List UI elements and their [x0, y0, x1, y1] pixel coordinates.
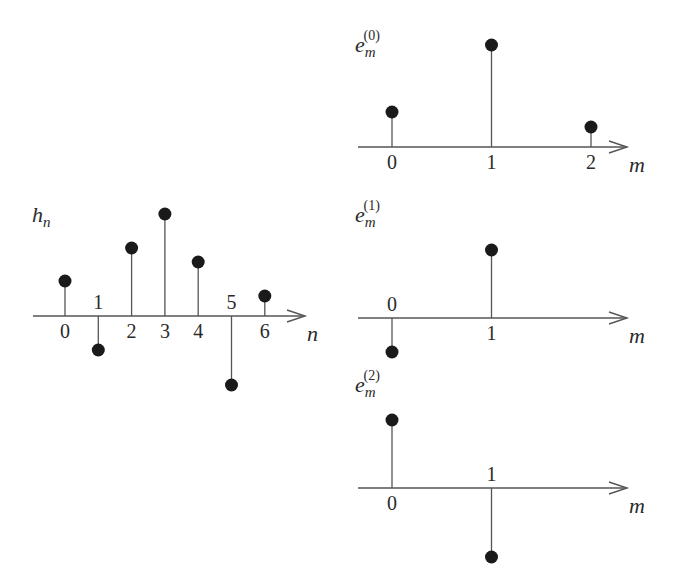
stem-marker — [92, 344, 105, 357]
stem-marker — [225, 379, 238, 392]
stem: 1 — [485, 39, 498, 174]
stem-plot-e-m-2: m01 — [358, 414, 645, 564]
x-axis-label: m — [629, 323, 645, 348]
ylabel-e-m-0: em(0) — [355, 28, 380, 60]
stem: 1 — [485, 463, 498, 564]
stem-marker — [386, 414, 399, 427]
tick-label: 1 — [487, 322, 497, 344]
ylabel-e1-sub: m — [365, 214, 376, 230]
stem-marker — [485, 244, 498, 257]
x-axis-label: n — [307, 321, 318, 346]
tick-label: 0 — [387, 293, 397, 315]
tick-label: 1 — [487, 463, 497, 485]
stem-marker — [386, 346, 399, 359]
tick-label: 0 — [387, 492, 397, 514]
tick-label: 4 — [193, 320, 203, 342]
stem-marker — [386, 106, 399, 119]
stem: 5 — [225, 291, 238, 392]
ylabel-e0-sup: (0) — [364, 28, 381, 44]
stem: 2 — [125, 242, 138, 343]
ylabel-e0-sub: m — [365, 44, 376, 60]
ylabel-h-sub: n — [43, 214, 51, 230]
stem-marker — [59, 275, 72, 288]
stem: 0 — [386, 106, 399, 174]
stem-marker — [158, 208, 171, 221]
stem-marker — [258, 290, 271, 303]
ylabel-h-main: h — [32, 202, 43, 227]
stem: 1 — [485, 244, 498, 345]
tick-label: 0 — [60, 320, 70, 342]
stem-plot-e-m-0: m012 — [358, 39, 645, 178]
tick-label: 2 — [127, 320, 137, 342]
stem-plot-e-m-1: m01 — [358, 244, 645, 359]
x-axis-label: m — [629, 152, 645, 177]
tick-label: 3 — [160, 320, 170, 342]
tick-label: 1 — [93, 291, 103, 313]
tick-label: 2 — [586, 151, 596, 173]
stem: 1 — [92, 291, 105, 357]
stem: 0 — [386, 293, 399, 359]
tick-label: 5 — [227, 291, 237, 313]
x-axis-label: m — [629, 493, 645, 518]
stem-marker — [125, 242, 138, 255]
stem-marker — [485, 551, 498, 564]
stem-marker — [485, 39, 498, 52]
tick-label: 0 — [387, 151, 397, 173]
stem-marker — [585, 121, 598, 134]
ylabel-h-n: hn — [32, 202, 51, 230]
ylabel-e-m-2: em(2) — [355, 368, 380, 400]
stem: 4 — [192, 256, 205, 343]
ylabel-e-m-1: em(1) — [355, 198, 380, 230]
stem-plot-figure: n0123456 m012 m01 m01 hn em(0) em(1) em(… — [0, 0, 680, 585]
tick-label: 1 — [487, 151, 497, 173]
tick-label: 6 — [260, 320, 270, 342]
stem: 3 — [158, 208, 171, 343]
stem-plot-h-n: n0123456 — [33, 208, 318, 392]
ylabel-e1-sup: (1) — [364, 198, 381, 214]
stem-marker — [192, 256, 205, 269]
stem: 0 — [59, 275, 72, 343]
ylabel-e2-sup: (2) — [364, 368, 381, 384]
stem: 0 — [386, 414, 399, 515]
ylabel-e2-sub: m — [365, 384, 376, 400]
